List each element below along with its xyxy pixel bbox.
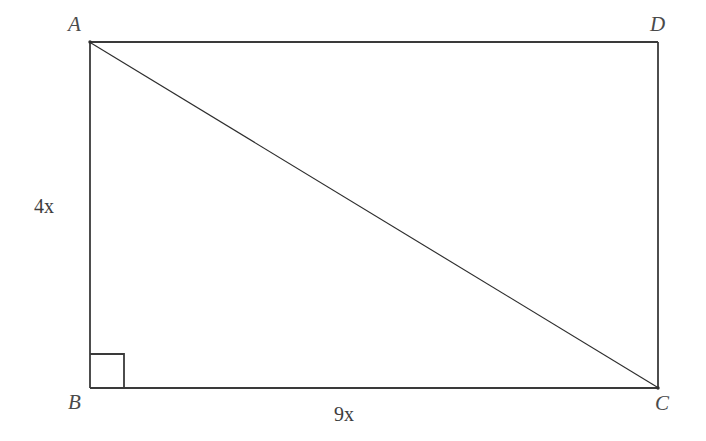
vertex-label-A: A bbox=[68, 14, 81, 35]
right-angle-marker-B bbox=[90, 354, 124, 388]
vertex-label-D: D bbox=[650, 14, 665, 35]
vertex-dot-C bbox=[656, 386, 659, 389]
geometry-drawing bbox=[0, 0, 706, 441]
vertex-dot-A bbox=[88, 40, 91, 43]
vertex-label-B: B bbox=[68, 392, 81, 413]
side-length-label-left: 4x bbox=[34, 196, 54, 216]
side-length-label-bottom: 9x bbox=[334, 404, 354, 424]
geometry-figure: A D B C 4x 9x bbox=[0, 0, 706, 441]
diagonal-AC bbox=[91, 43, 657, 387]
vertex-label-C: C bbox=[655, 393, 669, 414]
